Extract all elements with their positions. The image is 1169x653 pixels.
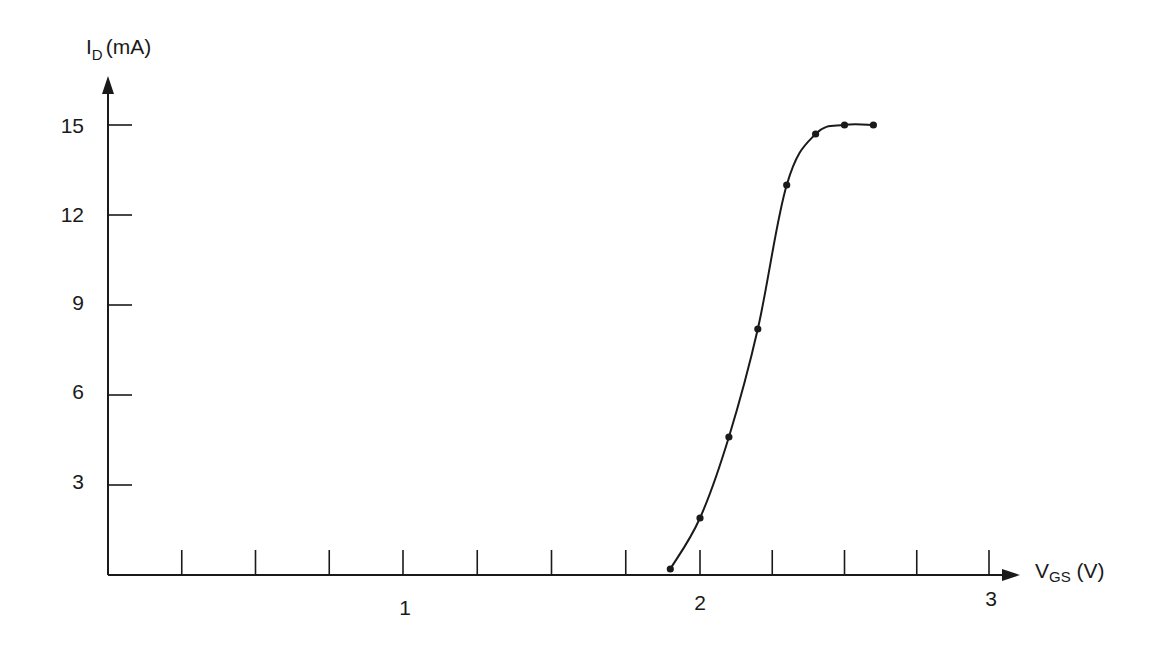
- y-tick-label-6: 6: [44, 381, 84, 402]
- data-point: [725, 433, 732, 440]
- x-axis-label-sub: GS: [1049, 568, 1071, 585]
- x-axis-label-main: V: [1035, 559, 1049, 582]
- data-curve: [670, 124, 873, 569]
- chart-canvas: [0, 0, 1169, 653]
- y-axis-label-sub: D: [92, 46, 103, 63]
- data-point: [754, 325, 761, 332]
- data-point: [696, 514, 703, 521]
- data-point: [870, 121, 877, 128]
- data-point: [783, 181, 790, 188]
- x-tick-label-3: 3: [976, 588, 1006, 609]
- data-point: [841, 121, 848, 128]
- x-tick-label-1: 1: [390, 597, 420, 618]
- x-axis-label-unit: (V): [1071, 559, 1105, 582]
- data-point: [812, 130, 819, 137]
- y-tick-label-9: 9: [44, 292, 84, 313]
- x-tick-label-2: 2: [685, 592, 715, 613]
- y-axis-arrow-icon: [102, 76, 114, 94]
- y-tick-label-15: 15: [44, 115, 84, 136]
- y-tick-label-12: 12: [44, 204, 84, 225]
- x-axis-label: VGS (V): [1035, 560, 1105, 581]
- x-axis-arrow-icon: [1002, 569, 1020, 581]
- y-axis-label-unit: (mA): [106, 35, 152, 58]
- y-axis-label: ID(mA): [86, 36, 151, 57]
- y-tick-label-3: 3: [44, 471, 84, 492]
- y-axis-label-main: I: [86, 35, 92, 58]
- data-point: [667, 565, 674, 572]
